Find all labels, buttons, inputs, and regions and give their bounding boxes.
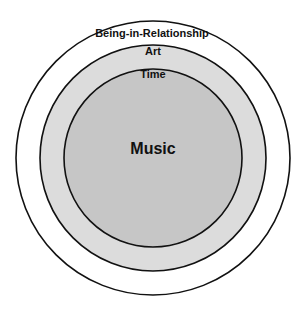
label-music: Music	[130, 140, 175, 157]
nested-circles-diagram: Being-in-Relationship Art Time Music	[0, 0, 302, 311]
circle-time	[64, 69, 242, 247]
label-art: Art	[145, 45, 161, 57]
label-being-in-relationship: Being-in-Relationship	[95, 27, 209, 39]
label-time: Time	[140, 68, 165, 80]
